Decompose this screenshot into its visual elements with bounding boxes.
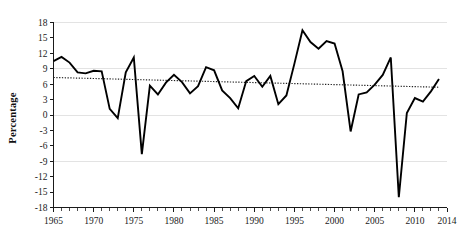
data-series-line (54, 30, 439, 197)
chart-container: 1815129630-3-6-9-12-15-18 19651970197519… (0, 0, 461, 249)
x-tick-label: 1985 (205, 216, 224, 226)
x-tick-label: 1995 (285, 216, 304, 226)
x-tick-label: 2000 (325, 216, 344, 226)
y-tick-label: -18 (35, 203, 48, 213)
y-tick-label: 12 (38, 49, 48, 59)
x-tick-label: 1970 (84, 216, 103, 226)
y-tick-label: 3 (43, 95, 48, 105)
y-tick-label: 18 (38, 18, 48, 28)
line-chart: 1815129630-3-6-9-12-15-18 19651970197519… (0, 0, 461, 249)
x-tick-label: 1990 (245, 216, 264, 226)
x-tick-label: 1965 (44, 216, 63, 226)
x-axis (54, 208, 448, 213)
y-tick-label: -15 (35, 187, 48, 197)
x-tick-label: 2005 (365, 216, 384, 226)
y-axis (50, 23, 54, 208)
x-tick-label: 2010 (405, 216, 424, 226)
x-tick-labels: 1965197019751980198519901995200020052010… (44, 216, 457, 226)
y-tick-labels: 1815129630-3-6-9-12-15-18 (35, 18, 48, 213)
x-tick-label: 2014 (438, 216, 457, 226)
data-series-group (54, 30, 439, 197)
gridlines (54, 23, 448, 208)
y-tick-label: -12 (35, 172, 48, 182)
y-tick-label: -9 (40, 157, 48, 167)
y-tick-label: 6 (43, 80, 48, 90)
y-tick-label: -6 (40, 141, 48, 151)
y-tick-label: 9 (43, 64, 48, 74)
y-tick-label: 0 (43, 110, 48, 120)
y-axis-title: Percentage (7, 92, 18, 144)
y-tick-label: -3 (40, 126, 48, 136)
x-tick-label: 1975 (124, 216, 143, 226)
x-tick-label: 1980 (164, 216, 183, 226)
y-tick-label: 15 (38, 33, 48, 43)
